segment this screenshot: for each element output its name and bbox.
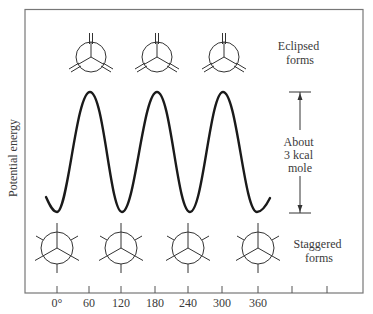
x-tick-label: 120 (112, 296, 130, 310)
eclipsed-newman-60 (69, 33, 113, 72)
x-tick-label: 180 (146, 296, 164, 310)
staggered-newman-240 (166, 223, 210, 273)
x-tick-label: 60 (83, 296, 95, 310)
x-tick-label: 360 (249, 296, 267, 310)
barrier-label-line: About (284, 135, 315, 149)
energy-barrier-label: About 3 kcal mole (284, 135, 317, 175)
ethane-conformation-energy-diagram: Potential energy 0° 60 120 180 240 300 3… (0, 0, 373, 314)
staggered-newman-360 (236, 223, 280, 273)
x-tick-label: 300 (213, 296, 231, 310)
y-axis-label: Potential energy (6, 119, 20, 197)
barrier-label-line: mole (288, 161, 312, 175)
eclipsed-label-line: Eclipsed (278, 39, 319, 53)
x-tick-label: 240 (179, 296, 197, 310)
staggered-newman-120 (99, 223, 143, 273)
staggered-newman-0 (35, 223, 79, 273)
eclipsed-newman-300 (202, 33, 246, 72)
eclipsed-forms-label: Eclipsed forms (278, 39, 322, 67)
eclipsed-newman-projections (69, 33, 246, 72)
eclipsed-label-line: forms (286, 53, 314, 67)
x-tick-label: 0° (52, 296, 63, 310)
eclipsed-newman-180 (135, 33, 179, 72)
staggered-newman-projections (35, 223, 280, 273)
staggered-label-line: Staggered (294, 237, 342, 251)
x-axis-tick-labels: 0° 60 120 180 240 300 360 (52, 296, 267, 310)
staggered-label-line: forms (305, 251, 333, 265)
staggered-forms-label: Staggered forms (294, 237, 345, 265)
x-axis-ticks (57, 286, 327, 293)
energy-curve (46, 92, 270, 212)
barrier-label-line: 3 kcal (284, 148, 314, 162)
